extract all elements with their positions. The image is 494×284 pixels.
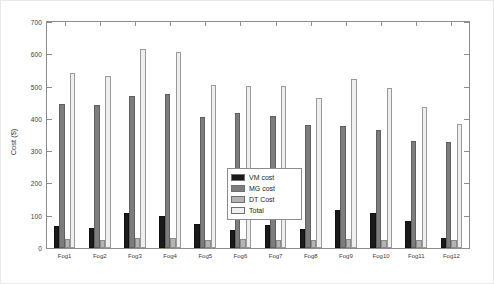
x-tick-label: Fog7 [269,253,283,259]
bar-group [335,22,357,248]
y-tick [47,22,52,23]
legend-swatch-dt-cost [231,196,245,203]
x-tick-label: Fog10 [373,253,390,259]
x-tick-label: Fog4 [163,253,177,259]
bar [70,73,75,248]
x-tick-label: Fog5 [198,253,212,259]
y-tick-label: 700 [31,19,42,26]
bar-group [441,22,463,248]
legend-swatch-mg-cost [231,185,245,192]
bar-group [300,22,322,248]
x-tick-label: Fog2 [93,253,107,259]
bar-group [54,22,76,248]
bar-group [89,22,111,248]
y-tick-right [464,119,469,120]
bar [246,86,251,248]
y-tick [47,216,52,217]
legend-label-total: Total [249,207,264,214]
y-tick-right [464,54,469,55]
bar [94,105,99,248]
bar [305,125,310,248]
bar [281,86,286,248]
bar [200,117,205,248]
y-tick-right [464,248,469,249]
bar-group [405,22,427,248]
y-tick-right [464,151,469,152]
bar [422,107,427,248]
y-tick-label: 600 [31,51,42,58]
y-tick-right [464,87,469,88]
x-tick-label: Fog11 [408,253,425,259]
legend-item: Total [231,205,297,216]
y-tick [47,54,52,55]
legend-item: MG cost [231,183,297,194]
chart-legend: VM cost MG cost DT Cost Total [227,168,302,220]
bar [457,124,462,248]
bar [446,142,451,248]
legend-swatch-total [231,207,245,214]
y-tick-label: 300 [31,148,42,155]
legend-item: VM cost [231,172,297,183]
y-tick [47,87,52,88]
y-tick-label: 500 [31,83,42,90]
x-tick-label: Fog3 [128,253,142,259]
legend-swatch-vm-cost [231,174,245,181]
bar-group [194,22,216,248]
legend-label-vm-cost: VM cost [249,174,274,181]
legend-item: DT Cost [231,194,297,205]
bar [351,79,356,248]
bar [411,141,416,248]
y-tick [47,151,52,152]
bar [376,130,381,248]
y-tick-label: 0 [38,245,42,252]
y-tick-label: 400 [31,115,42,122]
legend-label-dt-cost: DT Cost [249,196,275,203]
y-tick-right [464,216,469,217]
y-tick-label: 200 [31,180,42,187]
x-tick-label: Fog8 [304,253,318,259]
bar-group [370,22,392,248]
x-tick-label: Fog6 [234,253,248,259]
y-tick-right [464,183,469,184]
legend-label-mg-cost: MG cost [249,185,275,192]
plot-area: 0100200300400500600700 Fog1Fog2Fog3Fog4F… [46,21,470,249]
bar [176,52,181,248]
bar [129,96,134,248]
y-tick [47,119,52,120]
bar [340,126,345,248]
y-tick [47,183,52,184]
bar [211,85,216,248]
bar [316,98,321,248]
bar [140,49,145,248]
y-tick [47,248,52,249]
bar-group [124,22,146,248]
x-tick-label: Fog1 [58,253,72,259]
y-tick-right [464,22,469,23]
chart-figure: Cost ($) 0100200300400500600700 Fog1Fog2… [0,0,494,284]
bar [165,94,170,248]
bar [387,88,392,248]
bar [59,104,64,248]
x-tick-label: Fog12 [443,253,460,259]
y-axis-title: Cost ($) [9,129,18,156]
bar [105,76,110,248]
y-tick-label: 100 [31,212,42,219]
x-tick-label: Fog9 [339,253,353,259]
bar-group [159,22,181,248]
